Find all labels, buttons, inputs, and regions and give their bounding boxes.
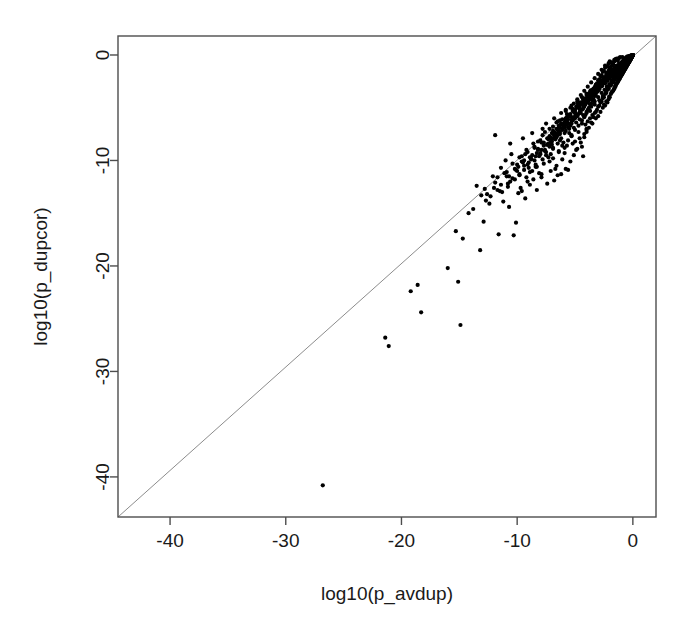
data-point [510, 162, 514, 166]
data-point [578, 110, 582, 114]
data-point [517, 155, 521, 159]
data-point [590, 90, 594, 94]
data-point [573, 114, 577, 118]
data-point [512, 233, 516, 237]
data-point [541, 133, 545, 137]
data-point [545, 182, 549, 186]
data-point [542, 140, 546, 144]
data-point [523, 196, 527, 200]
data-point [557, 126, 561, 130]
data-point [454, 229, 458, 233]
data-point [563, 151, 567, 155]
data-point [593, 87, 597, 91]
data-point [552, 178, 556, 182]
data-point [579, 140, 583, 144]
data-point [560, 157, 564, 161]
data-point [597, 87, 601, 91]
data-point [578, 117, 582, 121]
data-point [478, 248, 482, 252]
data-point [488, 194, 492, 198]
data-point [520, 159, 524, 163]
data-point [546, 141, 550, 145]
data-point [557, 149, 561, 153]
data-point [567, 131, 571, 135]
data-point [567, 127, 571, 131]
data-point [586, 94, 590, 98]
data-point [531, 177, 535, 181]
data-point [593, 76, 597, 80]
data-point [539, 172, 543, 176]
data-point [556, 141, 560, 145]
data-point [578, 106, 582, 110]
data-point [507, 205, 511, 209]
data-point [475, 184, 479, 188]
x-tick-label: -30 [272, 530, 299, 551]
data-point [482, 220, 486, 224]
data-point [539, 148, 543, 152]
data-point [544, 121, 548, 125]
y-axis-title: log10(p_dupcor) [30, 207, 52, 345]
data-point [505, 174, 509, 178]
data-point [547, 159, 551, 163]
data-point [572, 153, 576, 157]
data-point [534, 154, 538, 158]
data-point [600, 91, 604, 95]
data-point [561, 121, 565, 125]
data-point [531, 141, 535, 145]
data-point [559, 136, 563, 140]
data-point [551, 136, 555, 140]
x-axis-title: log10(p_avdup) [321, 583, 453, 605]
data-point [568, 159, 572, 163]
data-point [551, 156, 555, 160]
data-point [589, 80, 593, 84]
data-point [493, 133, 497, 137]
data-point [552, 116, 556, 120]
data-point [586, 85, 590, 89]
data-point [524, 175, 528, 179]
data-point [535, 188, 539, 192]
data-point [590, 121, 594, 125]
data-point [491, 174, 495, 178]
data-point [580, 145, 584, 149]
data-point [534, 163, 538, 167]
data-point [584, 127, 588, 131]
data-point [479, 193, 483, 197]
data-point [461, 236, 465, 240]
data-point [521, 136, 525, 140]
data-point [569, 118, 573, 122]
data-point [581, 98, 585, 102]
data-point [499, 183, 503, 187]
data-point [607, 95, 611, 99]
data-point [566, 168, 570, 172]
data-point [542, 162, 546, 166]
y-tick-label: -20 [92, 252, 113, 279]
data-point [558, 118, 562, 122]
data-point [589, 105, 593, 109]
x-tick-label: -10 [503, 530, 530, 551]
data-point [582, 101, 586, 105]
data-point [387, 344, 391, 348]
scatter-plot-figure: -40-30-20-100 0-10-20-30-40 log10(p_avdu… [0, 0, 687, 639]
data-point [500, 190, 504, 194]
data-point [501, 200, 505, 204]
data-point [522, 168, 526, 172]
data-point [321, 483, 325, 487]
data-point [580, 121, 584, 125]
data-point [487, 202, 491, 206]
data-point [581, 154, 585, 158]
data-point [493, 181, 497, 185]
data-point [495, 175, 499, 179]
data-point [509, 152, 513, 156]
data-point [515, 169, 519, 173]
data-point [499, 166, 503, 170]
data-point [627, 56, 631, 60]
data-point [604, 99, 608, 103]
data-point [556, 131, 560, 135]
data-point [553, 167, 557, 171]
data-point [456, 280, 460, 284]
data-point [525, 163, 529, 167]
data-point [576, 130, 580, 134]
data-point [582, 132, 586, 136]
data-point [508, 141, 512, 145]
data-point [483, 187, 487, 191]
